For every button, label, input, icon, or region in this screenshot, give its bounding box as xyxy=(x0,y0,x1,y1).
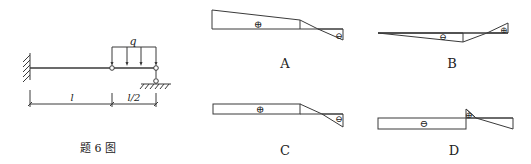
figure-caption: 题 6 图 xyxy=(80,142,116,155)
load-label: q xyxy=(129,35,136,48)
option-d-label: D xyxy=(449,143,459,158)
option-c-label: C xyxy=(280,143,290,158)
dim-right-label: l/2 xyxy=(128,92,141,103)
option-c-diagram: ⊕ ⊖ C xyxy=(213,104,343,158)
sign-positive: ⊕ xyxy=(500,25,508,35)
sign-negative: ⊖ xyxy=(335,114,343,124)
wall-hatch xyxy=(23,55,30,82)
distributed-load xyxy=(111,47,158,66)
sign-positive: ⊕ xyxy=(465,110,473,120)
sign-negative: ⊖ xyxy=(420,118,428,129)
beam-figure: q l l/2 题 6 图 xyxy=(23,35,171,155)
end-hinge xyxy=(154,66,159,71)
option-a-diagram: ⊕ ⊖ A xyxy=(212,10,343,71)
option-b-label: B xyxy=(447,56,457,71)
option-a-label: A xyxy=(279,56,290,71)
diagram-canvas: q l l/2 题 6 图 xyxy=(0,0,531,164)
support xyxy=(140,70,171,89)
option-b-diagram: ⊖ ⊕ B xyxy=(378,23,508,71)
hinge xyxy=(110,66,115,71)
sign-negative: ⊖ xyxy=(439,32,447,42)
dim-left-label: l xyxy=(70,92,73,103)
sign-negative: ⊖ xyxy=(335,31,343,41)
sign-positive: ⊕ xyxy=(256,104,264,115)
option-d-diagram: ⊖ ⊕ D xyxy=(378,109,513,158)
sign-positive: ⊕ xyxy=(254,19,262,30)
